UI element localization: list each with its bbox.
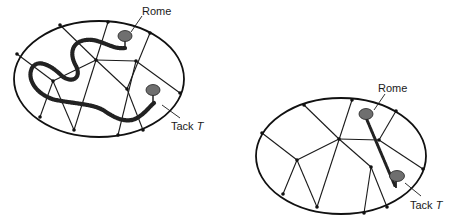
right-rome-tack [359, 109, 373, 120]
right-graph-edges [262, 100, 423, 213]
left-rome-label: Rome [142, 5, 171, 17]
left-figure: Rome Tack T [14, 5, 205, 137]
right-rome-label: Rome [378, 82, 407, 94]
right-tack-label: Tack T [410, 199, 444, 211]
right-figure: Rome Tack T [256, 82, 444, 215]
left-ellipse-boundary [14, 21, 184, 137]
diagram-canvas: Rome Tack T [0, 0, 449, 217]
left-rome-tack [118, 31, 132, 49]
right-ellipse-boundary [256, 98, 426, 214]
left-rome-pointer [131, 16, 142, 32]
right-tack-pointer [405, 183, 421, 196]
left-tack-t [146, 85, 160, 104]
right-tack-t [390, 171, 405, 189]
left-tack-label: Tack T [171, 120, 205, 132]
left-rope-path [30, 40, 154, 121]
